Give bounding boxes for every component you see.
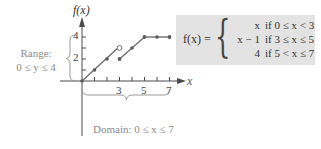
point [155, 35, 159, 39]
y-ticks [82, 37, 86, 70]
case-expression: x [229, 18, 265, 32]
domain-brace [82, 89, 170, 100]
case-condition: if 3 ≤ x ≤ 5 [265, 32, 314, 46]
x-ticks [95, 77, 170, 81]
x-tick-label-3: 3 [116, 84, 122, 96]
point [105, 57, 109, 61]
case-expression: 4 [229, 46, 265, 60]
range-annotation: Range: 0 ≤ y ≤ 4 [4, 46, 68, 74]
range-title: Range: [4, 46, 68, 60]
y-axis-arrow-icon [79, 17, 85, 27]
closed-endpoint [168, 35, 172, 39]
x-tick-label-5: 5 [141, 84, 147, 96]
case-condition: if 0 ≤ x < 3 [265, 18, 314, 32]
point [80, 79, 84, 83]
x-axis-label: x [187, 74, 192, 89]
case-row: 4 if 5 < x ≤ 7 [229, 46, 314, 60]
x-tick-label-7: 7 [166, 84, 172, 96]
y-tick-label-4: 4 [73, 29, 79, 41]
case-expression: x − 1 [229, 32, 265, 46]
y-tick-label-2: 2 [73, 51, 79, 63]
point [93, 68, 97, 72]
y-axis-label: f(x) [73, 3, 90, 18]
closed-endpoint [118, 57, 122, 61]
piecewise-cases: x if 0 ≤ x < 3 x − 1 if 3 ≤ x ≤ 5 4 if 5… [229, 18, 314, 60]
open-endpoint [117, 46, 122, 51]
point [130, 46, 134, 50]
function-lhs: f(x) = [183, 32, 211, 47]
x-axis-arrow-icon [177, 78, 186, 84]
case-row: x − 1 if 3 ≤ x ≤ 5 [229, 32, 314, 46]
range-inequality: 0 ≤ y ≤ 4 [4, 60, 68, 74]
case-row: x if 0 ≤ x < 3 [229, 18, 314, 32]
segment-1 [82, 49, 117, 81]
domain-annotation: Domain: 0 ≤ x ≤ 7 [93, 123, 174, 135]
case-condition: if 5 < x ≤ 7 [265, 46, 314, 60]
